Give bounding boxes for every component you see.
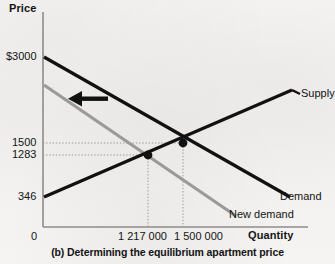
- y-tick-3000: $3000: [6, 50, 37, 62]
- supply-curve: [44, 90, 292, 197]
- demand-curve: [44, 57, 290, 197]
- supply-label-leader: [292, 90, 300, 94]
- original-equilibrium-point: [179, 139, 188, 148]
- y-tick-346: 346: [18, 190, 36, 202]
- economics-supply-demand-chart: Price Quantity $3000 1500 1283 346 0 1 2…: [0, 0, 335, 264]
- x-tick-1500000: 1 500 000: [174, 230, 223, 242]
- demand-curve-label: Demand: [280, 190, 322, 202]
- new-equilibrium-point: [144, 151, 153, 160]
- origin-label: 0: [31, 230, 37, 242]
- new-demand-curve-label: New demand: [229, 208, 294, 220]
- y-axis-title: Price: [9, 2, 36, 14]
- y-tick-1283: 1283: [12, 148, 36, 160]
- x-tick-1217000: 1 217 000: [118, 230, 167, 242]
- supply-curve-label: Supply: [301, 87, 335, 99]
- y-tick-1500: 1500: [12, 136, 36, 148]
- figure-caption: (b) Determining the equilibrium apartmen…: [0, 246, 335, 258]
- x-axis-title: Quantity: [248, 229, 293, 241]
- chart-canvas: [0, 0, 335, 264]
- guide-lines: [43, 143, 183, 227]
